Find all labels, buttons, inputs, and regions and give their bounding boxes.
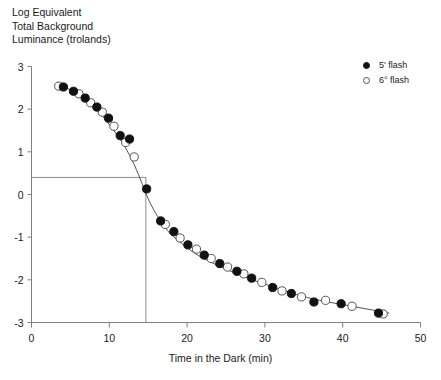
open-circle-icon (358, 77, 374, 84)
data-point-filled (104, 114, 112, 122)
y-tick-label: 0 (18, 189, 24, 201)
data-point-filled (374, 309, 382, 317)
x-axis-title: Time in the Dark (min) (0, 352, 441, 364)
data-point-filled (216, 260, 224, 268)
data-point-filled (93, 103, 101, 111)
data-point-filled (59, 83, 67, 91)
data-point-open (130, 153, 138, 161)
filled-circle-icon (358, 62, 374, 69)
data-point-filled (125, 135, 133, 143)
legend-item-filled: 5' flash (358, 58, 409, 73)
y-tick-label: -2 (14, 274, 23, 286)
x-tick-label: 0 (29, 332, 35, 344)
data-point-filled (233, 267, 241, 275)
plot-area: 3210-1-2-301020304050 (0, 0, 441, 380)
data-point-filled (337, 300, 345, 308)
legend-item-open: 6° flash (358, 73, 409, 88)
data-point-filled (248, 274, 256, 282)
data-point-open (176, 234, 184, 242)
x-tick-label: 20 (181, 332, 193, 344)
x-tick-label: 30 (259, 332, 271, 344)
data-point-open (278, 287, 286, 295)
data-point-open (321, 296, 329, 304)
data-point-filled (116, 132, 124, 140)
legend-label-open: 6° flash (374, 73, 409, 88)
y-tick-label: -1 (14, 231, 23, 243)
data-point-filled (184, 241, 192, 249)
y-tick-label: 3 (18, 61, 24, 73)
data-point-filled (269, 283, 277, 291)
x-tick-label: 40 (337, 332, 349, 344)
data-point-open (297, 293, 305, 301)
data-point-filled (200, 251, 208, 259)
data-point-open (223, 263, 231, 271)
x-tick-label: 50 (415, 332, 427, 344)
dark-adaptation-chart: Log Equivalent Total Background Luminanc… (0, 0, 441, 380)
data-point-open (348, 302, 356, 310)
data-point-filled (157, 217, 165, 225)
legend-label-filled: 5' flash (374, 58, 407, 73)
data-point-open (110, 122, 118, 130)
data-point-filled (81, 94, 89, 102)
data-point-filled (69, 87, 77, 95)
y-tick-label: 1 (18, 146, 24, 158)
x-tick-label: 10 (103, 332, 115, 344)
data-point-open (192, 245, 200, 253)
data-point-filled (310, 298, 318, 306)
y-tick-label: 2 (18, 103, 24, 115)
data-point-filled (170, 228, 178, 236)
data-point-filled (143, 185, 151, 193)
data-point-open (258, 278, 266, 286)
chart-legend: 5' flash 6° flash (358, 58, 409, 88)
y-tick-label: -3 (14, 317, 23, 329)
data-point-filled (287, 289, 295, 297)
